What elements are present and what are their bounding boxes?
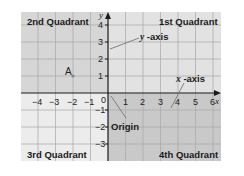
quadrant-1-label: 1st Quadrant [159, 16, 218, 27]
coordinate-plane: 2nd Quadrant 1st Quadrant 3rd Quadrant 4… [21, 12, 221, 161]
y-axis-callout: y -axis [140, 31, 169, 42]
x-tick-label: −2 [67, 98, 77, 107]
callout-pointers [110, 38, 184, 118]
axes [21, 16, 214, 161]
y-tick-label: 2 [98, 55, 103, 64]
y-tick-label: 4 [98, 21, 103, 30]
x-tick-label: −1 [84, 98, 94, 107]
x-tick-label: 4 [175, 98, 180, 107]
x-tick-label-origin: 0 [101, 96, 106, 105]
y-tick-label: 1 [98, 72, 103, 81]
x-tick-label: 1 [123, 98, 128, 107]
x-axis-callout: x -axis [176, 73, 205, 84]
x-tick-label: 3 [158, 98, 163, 107]
y-tick-label: 3 [98, 38, 103, 47]
x-tick-label: 5 [193, 98, 198, 107]
y-tick-label: −2 [95, 123, 105, 132]
x-tick-label: 6 [210, 98, 215, 107]
quadrant-3-label: 3rd Quadrant [27, 149, 87, 160]
grid-lines [21, 12, 221, 161]
y-axis-arrow-icon [105, 12, 111, 19]
quadrant-4-label: 4th Quadrant [159, 149, 218, 160]
x-tick-label: 2 [140, 98, 145, 107]
y-tick-label: −1 [95, 106, 105, 115]
y-tick-label: −3 [95, 140, 105, 149]
x-axis-name: x [215, 97, 219, 106]
origin-callout: Origin [111, 121, 139, 132]
point-a-label: A [65, 67, 72, 77]
quadrant-2-label: 2nd Quadrant [27, 16, 89, 27]
y-axis-name: y [99, 12, 103, 20]
grid-and-axes [21, 12, 221, 161]
x-tick-label: −4 [32, 98, 42, 107]
x-tick-label: −3 [49, 98, 59, 107]
